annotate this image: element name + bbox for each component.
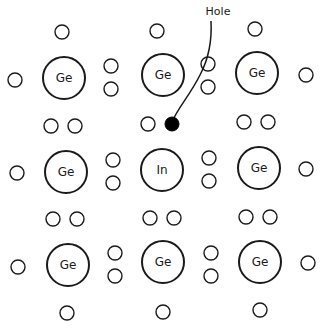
electron [11, 260, 25, 274]
germanium-atom: Ge [238, 147, 280, 189]
electron [263, 210, 277, 224]
electron [44, 119, 58, 133]
electron [55, 25, 69, 39]
germanium-atom: Ge [43, 57, 85, 99]
electron [106, 176, 120, 190]
atom-label: Ge [251, 161, 268, 175]
atom-label: Ge [60, 258, 77, 272]
electron [204, 246, 218, 260]
electron [202, 174, 216, 188]
atom-label: Ge [56, 71, 73, 85]
electron [10, 166, 24, 180]
electron [70, 212, 84, 226]
electron [108, 246, 122, 260]
electron [104, 82, 118, 96]
electron [261, 115, 275, 129]
electron [248, 22, 262, 36]
electron [150, 24, 164, 38]
germanium-atom: Ge [236, 52, 278, 94]
electron [46, 212, 60, 226]
electron [141, 117, 155, 131]
electron [60, 306, 74, 320]
electron [68, 119, 82, 133]
electron [301, 256, 315, 270]
electron [167, 211, 181, 225]
electron [143, 211, 157, 225]
atom-label: Ge [155, 68, 172, 82]
atom-label: Ge [58, 165, 75, 179]
electron [8, 73, 22, 87]
electron [106, 153, 120, 167]
germanium-atom: Ge [142, 54, 184, 96]
atom-label: Ge [155, 255, 172, 269]
electron [108, 269, 122, 283]
electron [202, 151, 216, 165]
indium-atom: In [141, 149, 183, 191]
electron [104, 59, 118, 73]
germanium-atom: Ge [142, 241, 184, 283]
electron [204, 269, 218, 283]
atoms: GeGeGeGeInGeGeGeGe [43, 52, 281, 286]
electron [156, 305, 170, 319]
electron [299, 68, 313, 82]
electron [253, 303, 267, 317]
germanium-atom: Ge [239, 241, 281, 283]
electron [239, 210, 253, 224]
hole-marker [165, 117, 179, 131]
germanium-atom: Ge [47, 244, 89, 286]
lattice-diagram: GeGeGeGeInGeGeGeGe Hole [0, 0, 320, 328]
atom-label: Ge [249, 66, 266, 80]
atom-label: Ge [252, 255, 269, 269]
hole-label: Hole [206, 5, 231, 18]
electron [201, 80, 215, 94]
electron [237, 115, 251, 129]
electron [299, 162, 313, 176]
germanium-atom: Ge [45, 151, 87, 193]
atom-label: In [156, 163, 167, 177]
